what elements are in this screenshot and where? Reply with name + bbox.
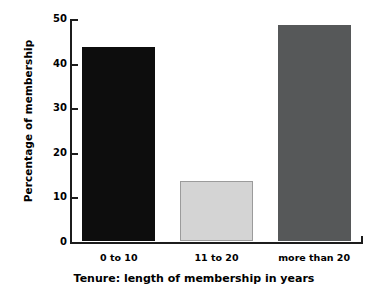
x-axis-line: [70, 242, 363, 244]
x-category-label: more than 20: [244, 252, 384, 263]
y-tick-mark: [72, 242, 78, 244]
y-tick-30: 30: [72, 108, 78, 110]
x-axis-title: Tenure: length of membership in years: [0, 272, 388, 285]
y-tick-0: 0: [72, 242, 78, 244]
y-tick-label: 50: [53, 13, 67, 24]
y-tick-mark: [72, 153, 78, 155]
x-axis-end-cap: [361, 236, 363, 244]
bar-chart-figure: Percentage of membership 01020304050 0 t…: [0, 0, 388, 300]
plot-area: 01020304050: [70, 19, 363, 243]
y-tick-10: 10: [72, 197, 78, 199]
y-tick-mark: [72, 19, 78, 21]
y-tick-20: 20: [72, 153, 78, 155]
y-axis-line: [70, 19, 72, 244]
bar-0-to-10: [82, 47, 155, 241]
y-tick-label: 0: [60, 236, 67, 247]
y-tick-label: 20: [53, 147, 67, 158]
y-tick-50: 50: [72, 19, 78, 21]
y-tick-40: 40: [72, 64, 78, 66]
y-tick-label: 10: [53, 191, 67, 202]
y-tick-mark: [72, 197, 78, 199]
y-tick-mark: [72, 108, 78, 110]
y-tick-mark: [72, 64, 78, 66]
y-axis-title: Percentage of membership: [22, 21, 34, 221]
bar-more-than-20: [278, 25, 351, 241]
bar-11-to-20: [180, 181, 253, 241]
y-tick-label: 30: [53, 102, 67, 113]
y-tick-label: 40: [53, 58, 67, 69]
